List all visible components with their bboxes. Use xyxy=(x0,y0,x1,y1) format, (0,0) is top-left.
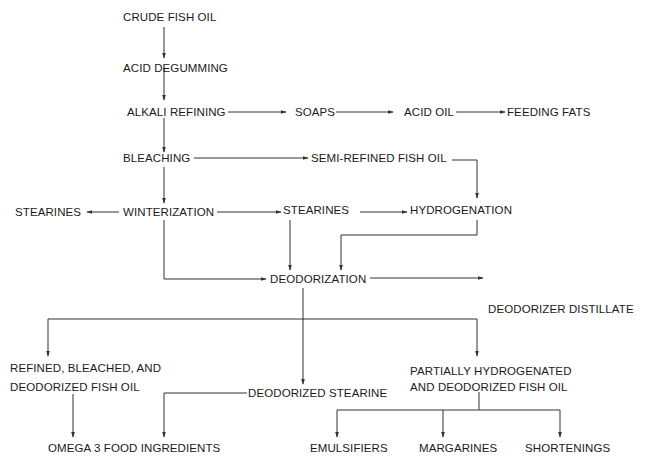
arrow-stearine-to-omega3 xyxy=(164,393,247,437)
node-feeding-fats: FEEDING FATS xyxy=(507,105,590,119)
node-alkali-refining: ALKALI REFINING xyxy=(127,105,226,119)
arrow-hydrogenation-to-deodorization xyxy=(341,220,477,270)
node-hydrogenation: HYDROGENATION xyxy=(410,203,512,217)
node-winterization: WINTERIZATION xyxy=(123,205,214,219)
arrow-to-rbd-fish-oil xyxy=(48,319,477,356)
node-stearines-left: STEARINES xyxy=(15,205,81,219)
node-soaps: SOAPS xyxy=(295,105,335,119)
node-emulsifiers: EMULSIFIERS xyxy=(310,441,388,455)
node-rbd-fish-oil-line2: DEODORIZED FISH OIL xyxy=(10,380,140,394)
node-acid-oil: ACID OIL xyxy=(404,105,454,119)
node-rbd-fish-oil-line1: REFINED, BLEACHED, AND xyxy=(10,361,161,375)
node-margarines: MARGARINES xyxy=(419,441,497,455)
node-omega3-food-ingredients: OMEGA 3 FOOD INGREDIENTS xyxy=(48,441,220,455)
arrow-winterization-to-deodorization xyxy=(164,220,266,279)
node-deodorized-stearine: DEODORIZED STEARINE xyxy=(248,386,387,400)
node-shortenings: SHORTENINGS xyxy=(525,441,610,455)
arrow-semirefined-to-hydrogenation xyxy=(452,160,477,198)
node-deodorizer-distillate: DEODORIZER DISTILLATE xyxy=(488,302,634,316)
node-acid-degumming: ACID DEGUMMING xyxy=(123,61,228,75)
node-crude-fish-oil: CRUDE FISH OIL xyxy=(123,10,216,24)
node-deodorization: DEODORIZATION xyxy=(270,272,366,286)
node-phd-fish-oil-line1: PARTIALLY HYDROGENATED xyxy=(410,364,572,378)
node-semi-refined-fish-oil: SEMI-REFINED FISH OIL xyxy=(311,151,447,165)
node-stearines-right: STEARINES xyxy=(283,203,349,217)
arrow-phd-to-emulsifiers xyxy=(337,410,560,437)
node-phd-fish-oil-line2: AND DEODORIZED FISH OIL xyxy=(410,380,568,394)
node-bleaching: BLEACHING xyxy=(123,151,190,165)
